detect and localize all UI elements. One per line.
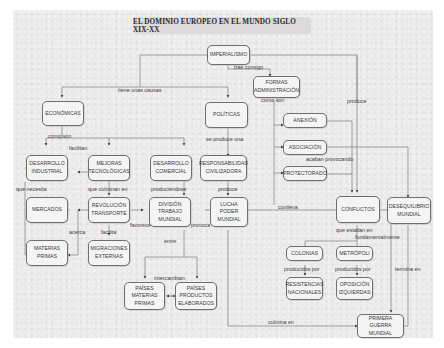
node-colonias: COLONIAS bbox=[286, 246, 323, 261]
label-producidos-por-colonias: producidos por bbox=[284, 266, 320, 272]
label-como-son-formas: como son bbox=[261, 97, 284, 103]
node-responsabilidad-civilizadora: RESPONSABILIDAD CIVILIZADORA bbox=[200, 155, 247, 181]
label-acaban-provocando: acaban provocando bbox=[306, 156, 353, 162]
node-anexion: ANEXIÓN bbox=[283, 113, 327, 128]
node-politicas: POLÍTICAS bbox=[205, 102, 248, 128]
label-facilitan: facilitan bbox=[69, 145, 87, 151]
node-oposicion-izquierdas: OPOSICIÓN IZQUIERDAS bbox=[336, 277, 373, 300]
label-trae-consigo: trae consigo bbox=[234, 64, 263, 70]
node-mercados: MERCADOS bbox=[26, 197, 68, 223]
node-mejoras-tecnologicas: MEJORAS TECNOLÓGICAS bbox=[88, 155, 130, 181]
label-conlleva: conlleva bbox=[278, 204, 298, 210]
label-que-estallan-en: que estallan en bbox=[336, 227, 373, 233]
label-culmina-en: culmina en bbox=[268, 319, 294, 325]
label-termina-en: termina en bbox=[395, 266, 420, 272]
node-conflictos: CONFLICTOS bbox=[336, 196, 380, 223]
node-paises-materias-primas: PAÍSES MATERIAS PRIMAS bbox=[124, 282, 165, 310]
node-desequilibrio-mundial: DESEQUILIBRIO MUNDIAL bbox=[387, 197, 431, 224]
label-provoca: provoca bbox=[191, 222, 210, 228]
node-desarrollo-industrial: DESARROLLO INDUSTRIAL bbox=[26, 155, 68, 181]
label-tiene-unas-causas: tiene unas causas bbox=[118, 87, 161, 93]
node-protectorado: PROTECTORADO bbox=[283, 166, 327, 181]
label-produce: produce bbox=[347, 98, 366, 104]
label-produce-lucha: produce bbox=[218, 186, 237, 192]
node-primera-guerra-mundial: PRIMERA GUERRA MUNDIAL bbox=[357, 314, 404, 338]
node-migraciones-externas: MIGRACIONES EXTERNAS bbox=[88, 240, 130, 266]
node-materias-primas: MATERIAS PRIMAS bbox=[26, 240, 68, 266]
label-fundamentalmente: fundamentalmente bbox=[355, 234, 400, 240]
node-economicas: ECONÓMICAS bbox=[42, 101, 84, 126]
label-produciendose: produciéndose bbox=[151, 186, 186, 192]
node-asociacion: ASOCIACIÓN bbox=[283, 140, 327, 155]
node-resistencias-nacionales: RESISTENCIAS NACIONALES bbox=[286, 277, 323, 300]
label-producidos-por-metropoli: producidos por bbox=[335, 266, 371, 272]
node-lucha-poder-mundial: LUCHA PODER MUNDIAL bbox=[210, 197, 248, 227]
label-favorece: favorece bbox=[130, 222, 151, 228]
node-desarrollo-comercial: DESARROLLO COMERCIAL bbox=[150, 155, 192, 181]
label-facilita: facilita bbox=[101, 229, 116, 235]
node-revolucion-transporte: REVOLUCIÓN TRANSPORTE bbox=[88, 197, 130, 223]
node-division-trabajo-mundial: DIVISIÓN TRABAJO MUNDIAL bbox=[149, 197, 191, 227]
label-como-son-economicas: como son bbox=[48, 133, 71, 139]
label-que-culminan-en: que culminan en bbox=[88, 186, 128, 192]
node-formas-administracion: FORMAS ADMINISTRACIÓN bbox=[253, 76, 300, 98]
diagram-title: EL DOMINIO EUROPEO EN EL MUNDO SIGLO XIX… bbox=[133, 17, 311, 34]
label-acerca: acerca bbox=[69, 229, 85, 235]
node-imperialismo: IMPERIALISMO bbox=[207, 45, 250, 65]
label-entre: entre bbox=[164, 238, 176, 244]
node-metropoli: METRÓPOLI bbox=[336, 246, 373, 261]
label-intercambian: intercambian bbox=[154, 275, 185, 281]
node-paises-productos-elaborados: PAÍSES PRODUCTOS ELABORADOS bbox=[175, 282, 217, 310]
label-se-produce-una: se produce una bbox=[206, 136, 243, 142]
label-que-necesita: que necesita bbox=[16, 186, 47, 192]
